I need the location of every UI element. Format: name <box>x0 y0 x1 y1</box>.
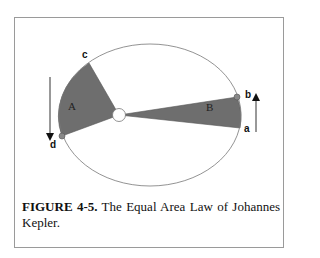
figure-caption: FIGURE 4-5. The Equal Area Law of Johann… <box>22 199 280 231</box>
area-label-b: B <box>206 102 213 113</box>
planet-marker-b <box>234 94 240 100</box>
point-label-c: c <box>82 50 88 60</box>
point-label-b: b <box>245 90 251 100</box>
point-label-a: a <box>244 124 250 134</box>
sun-icon <box>113 109 126 122</box>
sector-b <box>119 97 241 128</box>
caption-label: FIGURE 4-5. <box>22 199 97 214</box>
area-label-a: A <box>68 101 76 112</box>
planet-marker-d <box>59 133 65 139</box>
arrow-up-icon <box>252 93 260 101</box>
point-label-d: d <box>50 140 56 150</box>
